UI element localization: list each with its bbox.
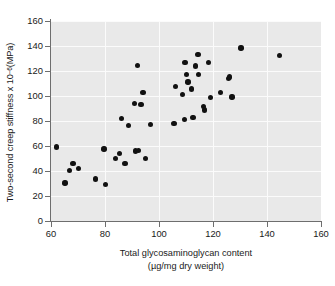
y-axis-tick-label: 140 [3,41,43,51]
x-axis-tick-label: 120 [193,229,233,239]
x-axis-tick-label: 80 [85,229,125,239]
y-axis-tick-label: 80 [3,116,43,126]
data-point [184,72,189,77]
x-axis-tick-label: 160 [301,229,335,239]
x-axis-tick-label: 60 [31,229,71,239]
gridline-horizontal [51,46,321,47]
data-point [189,86,194,91]
y-axis-tick-mark [45,46,50,47]
data-point [238,45,243,50]
data-point [190,115,195,120]
y-axis-tick-label: 40 [3,166,43,176]
gridline-vertical [267,21,268,221]
data-point [193,63,198,68]
data-point [196,72,201,77]
x-axis-line [50,221,322,222]
data-point [143,156,148,161]
data-point [93,176,98,181]
gridline-horizontal [51,171,321,172]
y-axis-line [50,19,51,222]
y-axis-tick-mark [45,21,50,22]
y-axis-tick-label: 120 [3,66,43,76]
y-axis-tick-label: 20 [3,191,43,201]
x-axis-tick-mark [51,222,52,227]
data-point [185,79,190,84]
gridline-vertical [105,21,106,221]
data-point [227,74,232,79]
scatter-plot-figure: Two-second creep stiffness x 10−6 (MPa) … [0,0,335,286]
gridline-vertical [213,21,214,221]
y-axis-tick-mark [45,71,50,72]
data-point [122,161,127,166]
y-axis-tick-mark [45,171,50,172]
x-axis-tick-label: 140 [247,229,287,239]
gridline-horizontal [51,196,321,197]
x-axis-tick-mark [159,222,160,227]
x-axis-tick-mark [267,222,268,227]
data-point [101,146,106,151]
plot-area [51,21,321,221]
data-point [67,168,72,173]
data-point [206,60,211,65]
data-point [136,148,141,153]
x-axis-title-line2: (µg/mg dry weight) [51,260,321,273]
y-axis-tick-label: 0 [3,216,43,226]
x-axis-title-line1: Total glycosaminoglycan content [51,247,321,260]
y-axis-tick-mark [45,146,50,147]
data-point [54,144,59,149]
data-point [138,102,143,107]
data-point [135,63,140,68]
y-axis-tick-label: 160 [3,16,43,26]
y-axis-tick-mark [45,96,50,97]
data-point [70,161,75,166]
data-point [140,90,145,95]
data-point [148,122,153,127]
data-point [173,84,178,89]
data-point [277,53,282,58]
data-point [103,182,108,187]
y-axis-tick-mark [45,196,50,197]
y-axis-tick-label: 60 [3,141,43,151]
data-point [113,156,118,161]
data-point [229,94,234,99]
data-point [182,60,187,65]
data-point [117,151,122,156]
data-point [132,101,137,106]
x-axis-tick-label: 100 [139,229,179,239]
x-axis-tick-mark [105,222,106,227]
data-point [195,52,200,57]
data-point [62,180,67,185]
y-axis-tick-mark [45,121,50,122]
x-axis-title: Total glycosaminoglycan content (µg/mg d… [51,247,321,272]
y-axis-tick-mark [45,221,50,222]
x-axis-tick-mark [321,222,322,227]
gridline-horizontal [51,96,321,97]
y-axis-tick-label: 100 [3,91,43,101]
data-point [171,121,176,126]
gridline-horizontal [51,21,321,22]
data-point [218,90,223,95]
data-point [202,107,207,112]
x-axis-tick-mark [213,222,214,227]
data-point [126,123,131,128]
gridline-vertical [159,21,160,221]
gridline-horizontal [51,146,321,147]
